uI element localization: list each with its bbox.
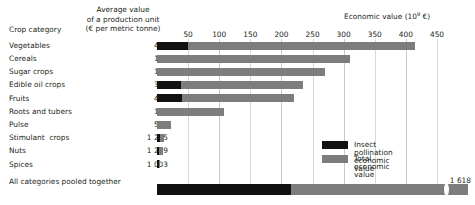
row-label: Cereals bbox=[9, 55, 37, 62]
bar-segment-pollination bbox=[157, 134, 160, 142]
crop-economic-value-chart: Crop category Average value of a product… bbox=[0, 0, 475, 205]
x-axis-tick-150: 150 bbox=[235, 30, 265, 39]
x-axis-tick-350: 350 bbox=[360, 30, 390, 39]
bar-segment-pollination bbox=[157, 94, 182, 102]
row-label: Fruits bbox=[9, 95, 29, 102]
x-axis-tick-100: 100 bbox=[204, 30, 234, 39]
row-label: Roots and tubers bbox=[9, 108, 72, 115]
bar-row bbox=[157, 81, 303, 89]
bar-row bbox=[157, 108, 224, 116]
column-header-avg-value-line2: of a production unit bbox=[78, 16, 168, 23]
axis-break-notch-icon bbox=[444, 183, 449, 196]
x-axis-tick-300: 300 bbox=[329, 30, 359, 39]
row-label: Sugar crops bbox=[9, 68, 53, 75]
bar-segment-pollination bbox=[157, 147, 159, 155]
row-label: Vegetables bbox=[9, 42, 50, 49]
x-axis-title-unit: €) bbox=[420, 12, 430, 21]
x-axis-tick-200: 200 bbox=[266, 30, 296, 39]
x-axis-tick-250: 250 bbox=[298, 30, 328, 39]
bar-segment-total bbox=[157, 108, 224, 116]
bar-segment-total bbox=[159, 147, 162, 155]
gridline-400 bbox=[406, 39, 407, 191]
x-axis-tick-450: 450 bbox=[422, 30, 452, 39]
bar-row bbox=[157, 121, 171, 129]
bar-segment-total bbox=[182, 94, 294, 102]
bar-row bbox=[157, 68, 325, 76]
bar-row bbox=[157, 160, 160, 168]
legend-swatch-pollination-icon bbox=[322, 141, 348, 149]
bar-segment-total bbox=[181, 81, 304, 89]
bar-segment-total bbox=[157, 68, 325, 76]
x-axis-title-text: Economic value (10 bbox=[344, 12, 417, 21]
bar-segment-pollination bbox=[157, 160, 159, 168]
column-header-avg-value-line1: Average value bbox=[78, 6, 168, 13]
x-axis-tick-400: 400 bbox=[391, 30, 421, 39]
row-label-pooled: All categories pooled together bbox=[9, 178, 121, 185]
row-label: Edible oil crops bbox=[9, 81, 65, 88]
legend-label-total: Total economic value bbox=[354, 155, 390, 179]
gridline-450 bbox=[437, 39, 438, 191]
bar-segment-pollination-pooled bbox=[157, 184, 291, 195]
bar-segment-pollination bbox=[157, 42, 188, 50]
bar-segment-total bbox=[188, 42, 415, 50]
row-label: Nuts bbox=[9, 147, 26, 154]
bar-row bbox=[157, 94, 294, 102]
bar-pooled-total bbox=[157, 184, 468, 195]
bar-row bbox=[157, 134, 164, 142]
bar-row bbox=[157, 147, 163, 155]
legend-swatch-total-icon bbox=[322, 155, 348, 163]
bar-segment-total bbox=[157, 121, 171, 129]
row-label: Spices bbox=[9, 161, 33, 168]
bar-row bbox=[157, 42, 415, 50]
bar-segment-total bbox=[160, 134, 164, 142]
column-header-avg-value-line3: (€ per metric tonne) bbox=[78, 25, 168, 32]
column-header-crop-category: Crop category bbox=[9, 26, 61, 33]
bar-segment-total bbox=[157, 55, 350, 63]
x-axis-title: Economic value (109 €) bbox=[344, 12, 430, 21]
x-axis-tick-50: 50 bbox=[173, 30, 203, 39]
bar-segment-total-pooled bbox=[291, 184, 468, 195]
row-label: Stimulant crops bbox=[9, 134, 69, 141]
pooled-total-value: 1 618 bbox=[450, 176, 471, 185]
bar-segment-pollination bbox=[157, 81, 181, 89]
bar-row bbox=[157, 55, 350, 63]
row-label: Pulse bbox=[9, 121, 28, 128]
